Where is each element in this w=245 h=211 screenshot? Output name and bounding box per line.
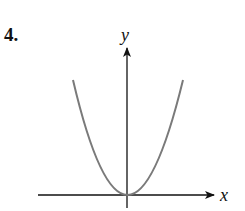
parabola-curve [73, 80, 183, 195]
x-axis-label: x [219, 185, 228, 205]
y-axis-label: y [119, 25, 129, 45]
graph: x y [0, 0, 245, 211]
